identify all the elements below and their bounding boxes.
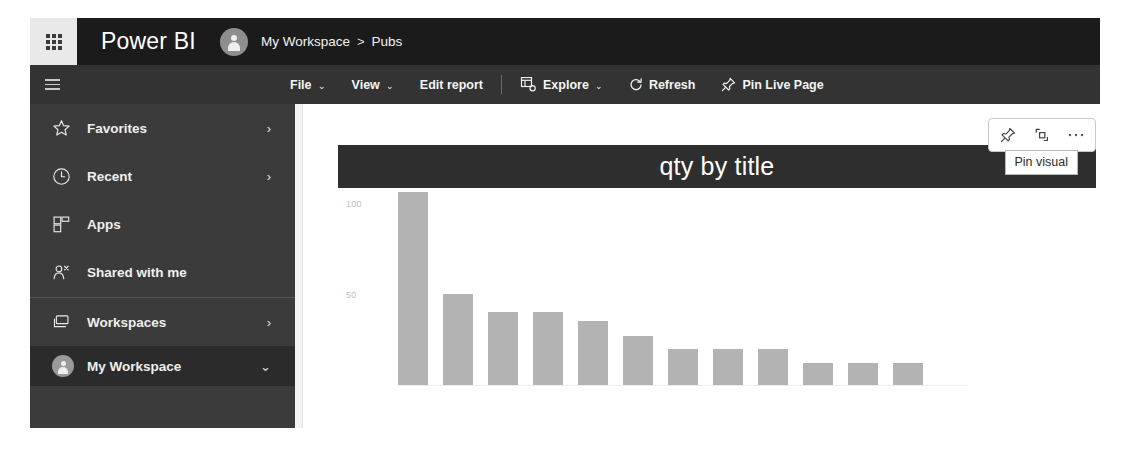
command-bar: File ⌄ View ⌄ Edit report <box>30 65 1100 104</box>
command-bar-divider <box>501 75 502 94</box>
chevron-right-icon: › <box>267 315 271 330</box>
visual-bar-chart[interactable]: qty by title 50100 <box>338 145 1096 428</box>
button-edit-report-label: Edit report <box>420 78 483 92</box>
canvas-gutter <box>295 104 303 428</box>
chevron-down-icon: ⌄ <box>260 359 271 374</box>
chevron-down-icon: ⌄ <box>595 81 603 91</box>
button-pin-live-page[interactable]: Pin Live Page <box>708 65 836 104</box>
menu-explore[interactable]: Explore ⌄ <box>507 65 616 104</box>
refresh-icon <box>629 78 643 92</box>
chart-plot-area: 50100 <box>338 188 1096 428</box>
pin-visual-button[interactable] <box>997 124 1019 146</box>
chart-bar[interactable] <box>803 363 833 385</box>
menu-explore-label: Explore <box>543 78 589 92</box>
chart-bar[interactable] <box>758 349 788 385</box>
tooltip-pin-visual: Pin visual <box>1005 150 1079 175</box>
chart-bar[interactable] <box>848 363 878 385</box>
report-canvas: qty by title 50100 <box>295 104 1100 428</box>
chevron-down-icon: ⌄ <box>386 81 394 91</box>
sidebar-item-workspaces[interactable]: Workspaces › <box>30 298 295 346</box>
sidebar-item-recent-label: Recent <box>87 169 132 184</box>
chevron-down-icon: ⌄ <box>318 81 326 91</box>
sidebar-item-recent[interactable]: Recent › <box>30 152 295 200</box>
button-edit-report[interactable]: Edit report <box>407 65 496 104</box>
shared-with-me-icon <box>52 263 78 282</box>
more-options-button[interactable] <box>1065 124 1087 146</box>
sidebar-item-shared-with-me-label: Shared with me <box>87 265 187 280</box>
apps-icon <box>52 215 78 234</box>
hamburger-lines <box>45 79 60 90</box>
visual-title-bar: qty by title <box>338 145 1096 188</box>
menu-file[interactable]: File ⌄ <box>277 65 339 104</box>
sidebar-item-favorites[interactable]: Favorites › <box>30 104 295 152</box>
y-axis-tick-label: 50 <box>346 290 357 300</box>
chart-bar[interactable] <box>533 312 563 385</box>
chart-bars <box>398 185 958 385</box>
button-refresh-label: Refresh <box>649 78 696 92</box>
sidebar-item-favorites-label: Favorites <box>87 121 147 136</box>
waffle-grid-icon[interactable] <box>30 18 77 65</box>
chart-bar[interactable] <box>488 312 518 385</box>
chart-bar[interactable] <box>578 321 608 385</box>
breadcrumb-item[interactable]: Pubs <box>372 34 403 49</box>
workspaces-icon <box>52 313 78 332</box>
sidebar-item-my-workspace-label: My Workspace <box>87 359 181 374</box>
star-icon <box>52 119 78 138</box>
app-header: Power BI My Workspace > Pubs <box>30 18 1100 65</box>
chevron-right-icon: › <box>267 169 271 184</box>
pin-icon <box>721 77 736 92</box>
chart-axis-line <box>398 385 968 386</box>
sidebar-item-workspaces-label: Workspaces <box>87 315 166 330</box>
focus-mode-button[interactable] <box>1031 124 1053 146</box>
chart-bar[interactable] <box>623 336 653 385</box>
visual-header-toolbar <box>988 118 1096 152</box>
sidebar-item-apps[interactable]: Apps <box>30 200 295 248</box>
chart-bar[interactable] <box>713 349 743 385</box>
clock-icon <box>52 167 78 186</box>
explore-icon <box>520 77 537 92</box>
mini-avatar <box>52 355 74 377</box>
chart-bar[interactable] <box>668 349 698 385</box>
sidebar: Favorites › Recent › Apps <box>30 104 295 428</box>
chart-bar[interactable] <box>893 363 923 385</box>
button-pin-live-page-label: Pin Live Page <box>742 78 823 92</box>
person-glyph <box>226 34 242 50</box>
sidebar-item-apps-label: Apps <box>87 217 121 232</box>
menu-view[interactable]: View ⌄ <box>339 65 407 104</box>
person-glyph <box>57 360 70 373</box>
power-bi-app: Power BI My Workspace > Pubs File ⌄ View… <box>30 18 1100 428</box>
chevron-right-icon: › <box>267 121 271 136</box>
menu-file-label: File <box>290 78 312 92</box>
chart-bar[interactable] <box>443 294 473 385</box>
user-avatar-icon[interactable] <box>220 28 248 56</box>
sidebar-item-shared-with-me[interactable]: Shared with me <box>30 248 295 296</box>
hamburger-menu-icon[interactable] <box>30 65 74 104</box>
menu-view-label: View <box>352 78 380 92</box>
chart-bar[interactable] <box>398 192 428 385</box>
breadcrumb: My Workspace > Pubs <box>261 34 402 49</box>
breadcrumb-workspace[interactable]: My Workspace <box>261 34 350 49</box>
button-refresh[interactable]: Refresh <box>616 65 709 104</box>
y-axis-tick-label: 100 <box>346 199 362 209</box>
command-bar-items: File ⌄ View ⌄ Edit report <box>277 65 837 104</box>
waffle-grid-glyph <box>46 34 62 50</box>
user-avatar-icon <box>52 355 78 377</box>
breadcrumb-separator-icon: > <box>357 34 365 49</box>
visual-title: qty by title <box>660 152 775 181</box>
brand-title[interactable]: Power BI <box>101 28 196 55</box>
sidebar-item-my-workspace[interactable]: My Workspace ⌄ <box>30 346 295 386</box>
